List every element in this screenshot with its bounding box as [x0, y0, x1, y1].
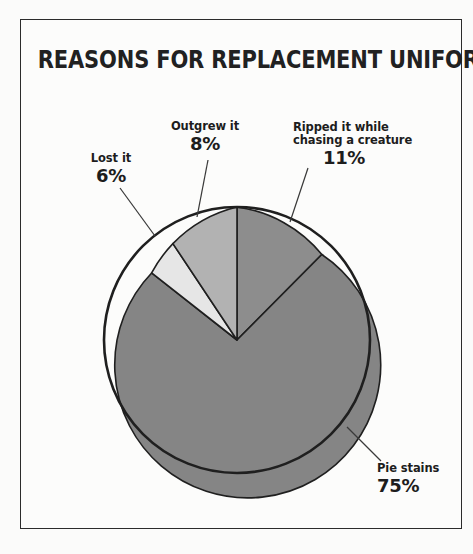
leader-line-ripped — [290, 168, 308, 222]
callout-pie-stains: Pie stains 75% — [377, 462, 473, 496]
callout-percent-value: 75% — [377, 476, 473, 496]
callout-label-text-line2: chasing a creature — [293, 134, 423, 147]
callout-label-text: Lost it — [70, 152, 152, 165]
callout-label-text-line1: Ripped it while — [293, 121, 423, 134]
callout-percent-value: 6% — [70, 166, 152, 186]
callout-ripped-it-while-chasing-a-creature: Ripped it while chasing a creature 11% — [293, 121, 423, 168]
callout-percent-value: 8% — [158, 134, 252, 154]
callout-percent-value: 11% — [293, 148, 395, 168]
callout-outgrew-it: Outgrew it 8% — [158, 120, 252, 154]
callout-label-text: Outgrew it — [158, 120, 252, 133]
callout-lost-it: Lost it 6% — [70, 152, 152, 186]
chart-page: REASONS FOR REPLACEMENT UNIFORMS Lost it… — [0, 0, 473, 554]
leader-line-outgrew — [197, 160, 208, 217]
leader-line-lost — [120, 188, 155, 236]
callout-label-text: Pie stains — [377, 462, 473, 475]
